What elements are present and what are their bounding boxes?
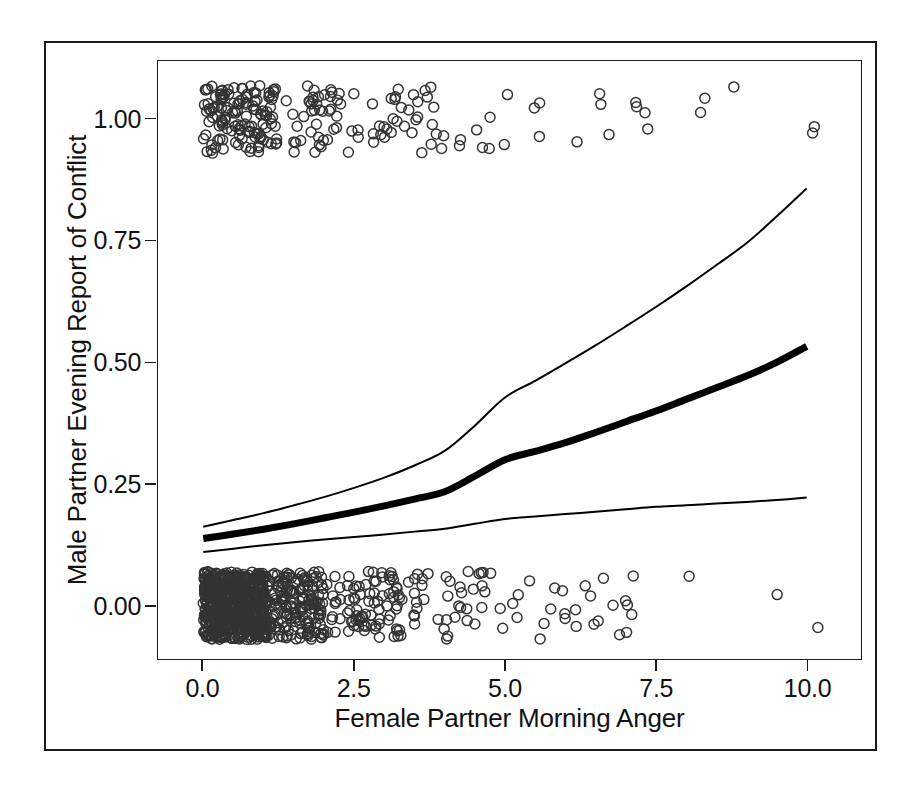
x-tick-label: 5.0 xyxy=(488,676,522,701)
data-point xyxy=(472,125,482,135)
data-point xyxy=(539,618,549,628)
data-point xyxy=(437,143,447,153)
data-point xyxy=(456,135,466,145)
x-tick-mark xyxy=(504,660,506,671)
x-tick-label: 0.0 xyxy=(185,676,219,701)
data-point xyxy=(485,112,495,122)
data-point xyxy=(495,604,505,614)
x-tick-mark xyxy=(201,660,203,671)
data-point xyxy=(503,90,513,100)
x-tick-mark xyxy=(353,660,355,671)
data-point xyxy=(344,572,354,582)
y-axis-title: Male Partner Evening Report of Conflict xyxy=(62,60,93,660)
x-tick-mark xyxy=(655,660,657,671)
data-point xyxy=(525,576,535,586)
data-point xyxy=(417,148,427,158)
data-point xyxy=(311,119,321,129)
x-tick-mark xyxy=(807,660,809,671)
data-point xyxy=(463,567,473,577)
data-point xyxy=(608,600,618,610)
fitted-probability-curve xyxy=(203,346,806,538)
data-point xyxy=(596,99,606,109)
x-tick-label: 2.5 xyxy=(337,676,371,701)
data-point xyxy=(330,627,340,637)
y-tick-mark xyxy=(145,362,156,364)
y-tick-label: 0.00 xyxy=(94,594,141,619)
data-point xyxy=(486,568,496,578)
data-point xyxy=(546,604,556,614)
data-point xyxy=(534,131,544,141)
data-point xyxy=(684,571,694,581)
data-point xyxy=(429,102,439,112)
x-axis-title: Female Partner Morning Anger xyxy=(157,703,862,734)
data-point xyxy=(407,128,417,138)
data-point xyxy=(426,139,436,149)
y-tick-mark xyxy=(145,118,156,120)
data-point xyxy=(349,89,359,99)
data-point xyxy=(343,147,353,157)
data-point xyxy=(499,140,509,150)
data-point xyxy=(571,605,581,615)
data-point xyxy=(772,590,782,600)
y-tick-label: 0.75 xyxy=(94,228,141,253)
y-tick-mark xyxy=(145,240,156,242)
y-tick-label: 0.50 xyxy=(94,350,141,375)
data-point xyxy=(572,137,582,147)
y-tick-mark xyxy=(145,483,156,485)
data-point xyxy=(809,122,819,132)
data-point xyxy=(535,634,545,644)
data-point xyxy=(409,588,419,598)
data-point xyxy=(443,591,453,601)
data-point xyxy=(281,96,291,106)
data-point xyxy=(513,590,523,600)
data-point xyxy=(480,587,490,597)
data-point xyxy=(422,92,432,102)
data-point xyxy=(580,581,590,591)
plot-data-layer xyxy=(158,61,861,659)
data-point xyxy=(628,571,638,581)
x-tick-label: 7.5 xyxy=(639,676,673,701)
data-point xyxy=(477,603,487,613)
outcome-one-band xyxy=(199,81,820,158)
data-point xyxy=(643,124,653,134)
y-tick-label: 0.25 xyxy=(94,472,141,497)
data-point xyxy=(700,93,710,103)
data-point xyxy=(571,621,581,631)
x-tick-label: 10.0 xyxy=(784,676,831,701)
data-point xyxy=(455,582,465,592)
data-point xyxy=(808,128,818,138)
data-point xyxy=(427,119,437,129)
data-point xyxy=(332,111,342,121)
data-point xyxy=(411,115,421,125)
data-point xyxy=(604,130,614,140)
figure-container: 0.000.250.500.751.00 0.02.55.07.510.0 Fe… xyxy=(0,0,918,788)
data-point xyxy=(729,82,739,92)
data-point xyxy=(292,121,302,131)
data-point xyxy=(310,147,320,157)
outcome-zero-band xyxy=(198,567,823,645)
confidence-upper-curve xyxy=(203,188,806,526)
plot-panel xyxy=(157,60,862,660)
data-point xyxy=(627,609,637,619)
data-point xyxy=(498,623,508,633)
data-point xyxy=(696,107,706,117)
y-tick-label: 1.00 xyxy=(94,106,141,131)
data-point xyxy=(484,143,494,153)
data-point xyxy=(347,126,357,136)
data-point xyxy=(598,573,608,583)
data-point xyxy=(813,623,823,633)
y-tick-mark xyxy=(145,605,156,607)
data-point xyxy=(595,89,605,99)
data-point xyxy=(512,612,522,622)
data-point xyxy=(289,147,299,157)
data-point xyxy=(288,109,298,119)
data-point xyxy=(367,99,377,109)
data-point xyxy=(468,584,478,594)
data-point xyxy=(330,572,340,582)
data-point xyxy=(586,591,596,601)
